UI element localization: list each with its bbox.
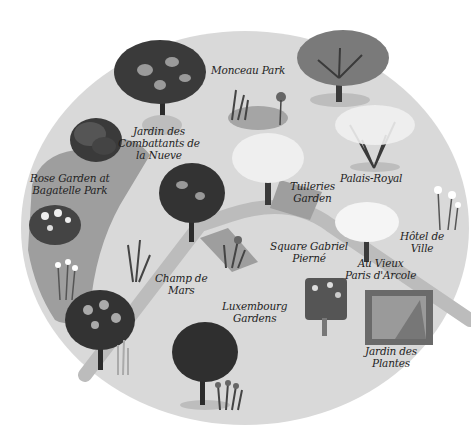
- label-champ[interactable]: Champ de Mars: [155, 272, 207, 296]
- bagatelle-roses: [29, 205, 81, 245]
- label-gabriel[interactable]: Square Gabriel Pierné: [270, 240, 348, 264]
- label-monceau[interactable]: Monceau Park: [211, 64, 285, 76]
- plantes-greenhouse: [365, 290, 433, 345]
- combattants-bush: [70, 118, 122, 162]
- label-tuileries[interactable]: Tuileries Garden: [290, 180, 335, 204]
- label-plantes[interactable]: Jardin des Plantes: [365, 345, 417, 369]
- label-combattants[interactable]: Jardin des Combattants de la Nueve: [118, 125, 200, 161]
- label-palais[interactable]: Palais-Royal: [340, 172, 402, 184]
- label-luxembourg[interactable]: Luxembourg Gardens: [222, 300, 287, 324]
- label-bagatelle[interactable]: Rose Garden at Bagatelle Park: [30, 172, 110, 196]
- label-vieux[interactable]: Au Vieux Paris d'Arcole: [345, 257, 416, 281]
- label-hotel[interactable]: Hôtel de Ville: [400, 230, 444, 254]
